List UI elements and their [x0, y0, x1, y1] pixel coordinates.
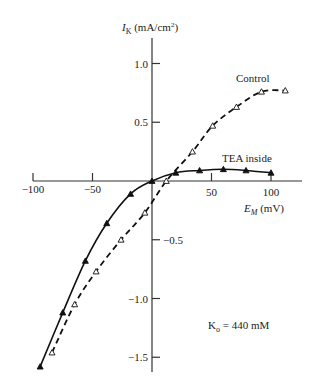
filled-triangle-marker — [82, 258, 88, 263]
y-tick-label: −0.5 — [163, 234, 183, 246]
x-tick-label: −50 — [84, 183, 102, 195]
series-label-control: Control — [236, 72, 270, 84]
x-axis-title: EM (mV) — [243, 202, 284, 217]
open-triangle-marker — [189, 149, 195, 154]
series-label-tea: TEA inside — [222, 152, 272, 164]
y-tick-label: −1.0 — [128, 293, 148, 305]
series-tea-inside — [37, 166, 274, 369]
y-tick-label: 0.5 — [134, 116, 148, 128]
x-tick-label: 100 — [263, 186, 280, 198]
filled-triangle-marker — [37, 364, 43, 369]
series-line — [52, 90, 285, 352]
y-tick-label: −1.5 — [128, 351, 148, 363]
open-triangle-marker — [72, 301, 78, 306]
series-line — [40, 169, 271, 366]
y-tick-label: 1.0 — [134, 58, 148, 70]
iv-curve-chart: −100−50501001.00.5−0.5−1.0−1.5 IK (mA/cm… — [0, 0, 321, 391]
annotation-ko: Ko = 440 mM — [208, 319, 269, 334]
x-tick-label: 50 — [206, 186, 218, 198]
open-triangle-marker — [49, 350, 55, 355]
series-control — [49, 88, 288, 355]
x-tick-label: −100 — [22, 183, 45, 195]
filled-triangle-marker — [60, 310, 66, 315]
y-axis-title: IK (mA/cm2) — [121, 21, 178, 36]
